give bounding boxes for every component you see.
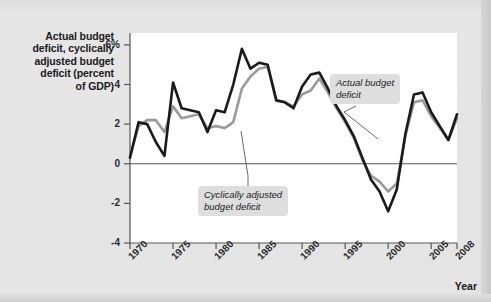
y-tick-label-2: 2 (96, 118, 120, 129)
y-tick-marks (124, 45, 130, 243)
y-tick-label--2: -2 (96, 197, 120, 208)
y-tick-label-6%: 6% (96, 39, 120, 50)
x-axis-title: Year (455, 280, 477, 292)
cyclically-adjusted-callout: Cyclically adjusted budget deficit (198, 186, 288, 216)
plot-area (130, 33, 457, 243)
y-tick-label-4: 4 (96, 79, 120, 90)
actual-budget-deficit-callout: Actual budget deficit (330, 74, 400, 104)
y-tick-label-0: 0 (96, 158, 120, 169)
y-tick-label--4: -4 (96, 237, 120, 248)
